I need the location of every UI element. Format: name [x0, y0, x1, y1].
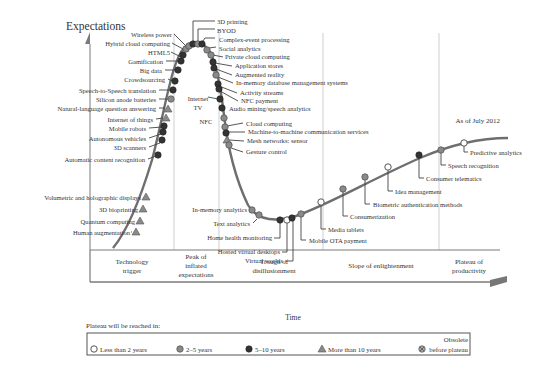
technology-label: 3D scanners [114, 144, 147, 151]
technology-label: Hosted virtual desktops [218, 248, 281, 255]
leader-line [301, 216, 306, 240]
phase-label: inflated [185, 262, 207, 270]
technology-label: Speech-to-Speech translation [79, 87, 157, 94]
technology-label: 3D printing [217, 18, 248, 25]
technology-label: HTML5 [148, 49, 171, 56]
gray-circle-marker-icon [226, 142, 232, 148]
phase-labels: TechnologytriggerPeak ofinflatedexpectat… [116, 253, 487, 279]
dark-circle-marker-icon [199, 41, 205, 47]
legend-title: Plateau will be reached in: [86, 322, 160, 330]
as-of-date-label: As of July 2012 [455, 117, 500, 125]
x-axis-arrow-icon [490, 276, 507, 287]
gray-circle-marker-icon [213, 72, 219, 78]
technology-label: Social analytics [219, 45, 261, 52]
hype-curve [113, 42, 508, 248]
dark-circle-marker-icon [175, 67, 181, 73]
dark-circle-marker-icon [216, 86, 222, 92]
x-axis-title: Time [285, 313, 301, 322]
technology-label: Autonomous vehicles [89, 135, 147, 142]
leader-line [282, 222, 287, 252]
technology-label: Speech recognition [448, 162, 499, 169]
gray-circle-marker-icon [298, 211, 304, 217]
phase-label: trigger [123, 267, 142, 275]
leader-line [227, 123, 243, 126]
phase-label: productivity [452, 267, 487, 275]
technology-labels: Human augmentationQuantum computing3D bi… [44, 18, 522, 264]
dark-circle-marker-icon [180, 52, 186, 58]
technology-label: Activity streams [240, 89, 284, 96]
leader-line [149, 134, 161, 138]
technology-label: Media tablets [328, 226, 364, 233]
gray-circle-marker-icon [177, 346, 183, 352]
gray-circle-marker-icon [222, 124, 228, 130]
leader-line [274, 222, 280, 238]
gray-circle-marker-icon [249, 207, 255, 213]
leader-line [253, 219, 257, 223]
technology-label: Big data [140, 67, 162, 74]
open-circle-marker-icon [91, 346, 97, 352]
dark-circle-marker-icon [289, 215, 295, 221]
phase-label: Trough of [260, 258, 289, 266]
leader-line [229, 140, 244, 141]
dark-circle-marker-icon [210, 59, 216, 65]
legend-label: before plateau [429, 346, 468, 353]
technology-label: Consumer telematics [426, 175, 482, 182]
technology-label: Cloud computing [246, 120, 293, 127]
open-circle-marker-icon [461, 140, 467, 146]
leader-line [203, 38, 215, 41]
technology-label: Mobile OTA payment [309, 237, 367, 244]
leader-line [198, 29, 215, 42]
dark-circle-marker-icon [223, 130, 229, 136]
hype-cycle-diagram: Expectations As of July 2012 Human augme… [0, 0, 552, 370]
technology-label: Complex-event processing [219, 36, 290, 43]
leader-line [419, 157, 424, 178]
phase-label: Technology [116, 258, 149, 266]
gray-circle-marker-icon [208, 52, 214, 58]
dark-circle-marker-icon [211, 65, 217, 71]
technology-label: Volumetric and holographic displays [44, 194, 141, 201]
legend-label: 5–10 years [255, 346, 285, 353]
technology-label: Text analytics [213, 220, 250, 227]
dark-circle-marker-icon [416, 152, 422, 158]
technology-label: Crowdsourcing [124, 76, 165, 83]
technology-label: Wireless power [131, 31, 173, 38]
dark-circle-marker-icon [155, 152, 161, 158]
technology-label: Natural-language question answering [57, 105, 156, 112]
technology-label: NFC payment [241, 97, 278, 104]
leader-line [174, 34, 186, 46]
technology-label: Gamification [128, 58, 163, 65]
dark-circle-marker-icon [217, 96, 223, 102]
technology-label: Application stores [235, 62, 284, 69]
leader-line [231, 148, 243, 152]
technology-label: Mesh networks: sensor [247, 137, 309, 144]
technology-label: Consumerization [350, 213, 396, 220]
phase-label: disillusionment [252, 267, 295, 275]
legend-label: 2–5 years [186, 346, 213, 353]
technology-label: NFC [200, 118, 213, 125]
technology-label: Home health monitoring [207, 234, 273, 241]
technology-label: In-memory database management systems [236, 79, 348, 86]
technology-label: Silicon anode batteries [96, 96, 156, 103]
dark-circle-marker-icon [172, 78, 178, 84]
technology-label: BYOD [217, 27, 236, 34]
leader-line [215, 63, 232, 66]
legend-label: Obsolete [444, 336, 468, 343]
technology-label: Machine-to-machine communication service… [248, 128, 369, 135]
technology-label: Quantum computing [81, 218, 136, 225]
open-circle-marker-icon [318, 199, 324, 205]
dark-circle-marker-icon [170, 87, 176, 93]
technology-label: TV [194, 104, 203, 111]
dark-circle-marker-icon [159, 137, 165, 143]
y-axis-title: Expectations [66, 20, 126, 33]
legend-label: More than 10 years [328, 346, 381, 353]
phase-label: Peak of [185, 253, 207, 261]
leader-line [285, 220, 293, 261]
gray-circle-marker-icon [168, 96, 174, 102]
hype-curve-path [113, 42, 508, 248]
legend-label: Less than 2 years [100, 346, 147, 353]
dark-circle-marker-icon [277, 217, 283, 223]
triangle-marker-icon [142, 193, 150, 200]
technology-label: Internet [188, 95, 209, 102]
gray-circle-marker-icon [362, 174, 368, 180]
technology-label: Internet of things [108, 116, 154, 123]
